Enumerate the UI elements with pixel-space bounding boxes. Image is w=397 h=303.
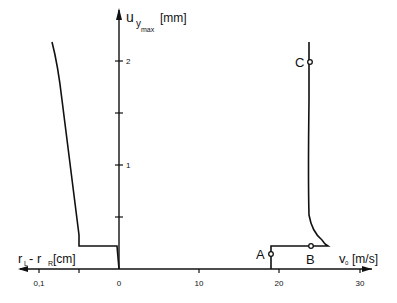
chart: 0,1 0 10 20 30 2 1 u y max [mm] r L - r …: [0, 0, 397, 303]
y-axis-label: u y max [mm]: [126, 9, 187, 33]
point-c-label: C: [295, 55, 304, 70]
x-axis-label-right: v 0 [m/s]: [339, 251, 378, 266]
series-left-curve: [52, 42, 119, 269]
x-tick-label-left: 0,1: [33, 279, 45, 288]
svg-text:max: max: [141, 26, 155, 33]
svg-text:r: r: [18, 251, 23, 266]
y-tick-label: 2: [126, 57, 131, 66]
x-tick-label: 10: [195, 279, 204, 288]
y-tick-label: 1: [126, 161, 131, 170]
x-axis-arrow-right-icon: [362, 266, 372, 272]
svg-text:u: u: [126, 9, 134, 25]
point-b-marker: [309, 244, 314, 249]
svg-text:[cm]: [cm]: [53, 252, 76, 266]
series-right-curve: [271, 42, 328, 269]
point-a-marker: [269, 252, 274, 257]
y-axis-arrow-icon: [116, 8, 122, 20]
svg-text:[mm]: [mm]: [160, 11, 187, 25]
point-c-marker: [308, 60, 313, 65]
svg-text:L: L: [24, 260, 28, 267]
x-tick-label: 30: [356, 279, 365, 288]
x-axis-label-left: r L - r R [cm]: [18, 251, 76, 267]
point-a-label: A: [256, 247, 265, 262]
point-b-label: B: [306, 252, 315, 267]
svg-text:[m/s]: [m/s]: [352, 252, 378, 266]
svg-text:- r: - r: [29, 251, 42, 266]
svg-text:0: 0: [345, 260, 349, 266]
x-tick-label: 20: [275, 279, 284, 288]
x-tick-label: 0: [117, 279, 122, 288]
